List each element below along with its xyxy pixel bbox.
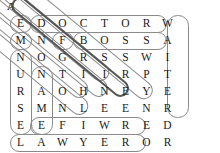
grid-cell-r2c8[interactable]: A [157, 32, 178, 49]
grid-cell-r7c1[interactable]: E [10, 117, 31, 134]
grid-cell-r1c8[interactable]: W [157, 15, 178, 32]
grid-cell-r6c3[interactable]: N [52, 100, 73, 117]
grid-cell-r8c6[interactable]: R [115, 134, 136, 151]
grid-cell-r4c5[interactable]: I [94, 66, 115, 83]
grid-cell-r3c1[interactable]: N [10, 49, 31, 66]
grid-cell-r1c3[interactable]: O [52, 15, 73, 32]
grid-cell-r3c5[interactable]: S [94, 49, 115, 66]
grid-cell-r8c2[interactable]: A [31, 134, 52, 151]
grid-cell-r3c4[interactable]: R [73, 49, 94, 66]
grid-cell-r4c8[interactable]: T [157, 66, 178, 83]
grid-cell-r4c4[interactable]: I [73, 66, 94, 83]
grid-cell-r5c2[interactable]: A [31, 83, 52, 100]
grid-cell-r1c4[interactable]: C [73, 15, 94, 32]
grid-cell-r2c3[interactable]: F [52, 32, 73, 49]
grid-cell-r8c8[interactable]: R [157, 134, 178, 151]
grid-cell-r3c8[interactable]: I [157, 49, 178, 66]
grid-cell-r1c1[interactable]: E [10, 15, 31, 32]
grid-cell-r5c7[interactable]: Y [136, 83, 157, 100]
grid-cell-r7c3[interactable]: F [52, 117, 73, 134]
grid-cell-r5c6[interactable]: E [115, 83, 136, 100]
word-search-puzzle: EDOCTORWMNFBOSSANOGRSSWIUNTIIRPTRAOHNEYE… [0, 0, 220, 153]
grid-cell-r3c7[interactable]: W [136, 49, 157, 66]
grid-cell-r1c6[interactable]: O [115, 15, 136, 32]
grid-cell-r6c6[interactable]: E [115, 100, 136, 117]
grid-cell-r3c3[interactable]: G [52, 49, 73, 66]
grid-cell-r1c7[interactable]: R [136, 15, 157, 32]
grid-cell-r6c7[interactable]: N [136, 100, 157, 117]
grid-cell-r6c1[interactable]: S [10, 100, 31, 117]
grid-cell-r3c2[interactable]: O [31, 49, 52, 66]
grid-cell-r6c8[interactable]: R [157, 100, 178, 117]
grid-cell-r7c4[interactable]: I [73, 117, 94, 134]
grid-cell-r5c3[interactable]: O [52, 83, 73, 100]
grid-cell-r6c4[interactable]: L [73, 100, 94, 117]
grid-cell-r4c1[interactable]: U [10, 66, 31, 83]
grid-cell-r5c4[interactable]: H [73, 83, 94, 100]
grid-cell-r8c5[interactable]: E [94, 134, 115, 151]
grid-cell-r4c7[interactable]: P [136, 66, 157, 83]
grid-cell-r2c6[interactable]: S [115, 32, 136, 49]
grid-cell-r5c1[interactable]: R [10, 83, 31, 100]
grid-cell-r8c4[interactable]: Y [73, 134, 94, 151]
grid-cell-r4c3[interactable]: T [52, 66, 73, 83]
grid-cell-r2c5[interactable]: O [94, 32, 115, 49]
grid-cell-r4c6[interactable]: R [115, 66, 136, 83]
grid-cell-r1c5[interactable]: T [94, 15, 115, 32]
grid-cell-r2c4[interactable]: B [73, 32, 94, 49]
grid-cell-r2c2[interactable]: N [31, 32, 52, 49]
grid-cell-r7c2[interactable]: E [31, 117, 52, 134]
grid-cell-r2c7[interactable]: S [136, 32, 157, 49]
grid-cell-r2c1[interactable]: M [10, 32, 31, 49]
letter-grid: EDOCTORWMNFBOSSANOGRSSWIUNTIIRPTRAOHNEYE… [0, 0, 220, 153]
grid-cell-r7c6[interactable]: R [115, 117, 136, 134]
grid-cell-r5c8[interactable]: E [157, 83, 178, 100]
grid-cell-r1c2[interactable]: D [31, 15, 52, 32]
grid-cell-r5c5[interactable]: N [94, 83, 115, 100]
grid-cell-r3c6[interactable]: S [115, 49, 136, 66]
grid-cell-r6c5[interactable]: E [94, 100, 115, 117]
grid-cell-r7c5[interactable]: W [94, 117, 115, 134]
grid-cell-r8c7[interactable]: O [136, 134, 157, 151]
grid-cell-r8c3[interactable]: W [52, 134, 73, 151]
grid-cell-r8c1[interactable]: L [10, 134, 31, 151]
grid-cell-r7c8[interactable]: D [157, 117, 178, 134]
grid-cell-r4c2[interactable]: N [31, 66, 52, 83]
grid-cell-r7c7[interactable]: E [136, 117, 157, 134]
grid-cell-r6c2[interactable]: M [31, 100, 52, 117]
